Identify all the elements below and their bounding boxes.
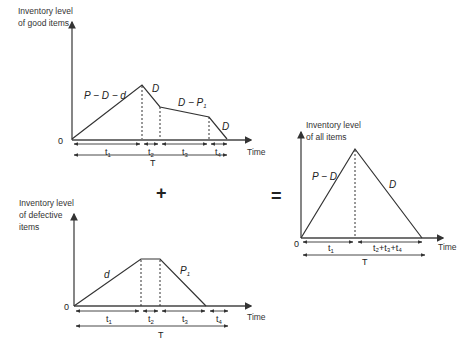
bottom-t2: t2 <box>148 314 155 325</box>
bottom-ylabel-2: of defective <box>19 210 63 220</box>
top-ylabel-2: of good items <box>18 18 69 28</box>
top-t3: t3 <box>182 147 189 158</box>
top-xlabel: Time <box>247 147 266 157</box>
bottom-ylabel-3: items <box>19 222 39 232</box>
top-origin: 0 <box>58 136 63 146</box>
right-chart-all-items: Inventory level of all items 0 Time P − … <box>294 120 457 267</box>
right-inventory-curve <box>301 149 422 238</box>
top-t2: t2 <box>148 147 155 158</box>
right-ylabel-1: Inventory level <box>306 120 361 130</box>
top-t4: t4 <box>215 147 222 158</box>
bottom-slope-up: d <box>104 269 110 280</box>
top-chart-good-items: Inventory level of good items 0 Time P −… <box>18 6 266 168</box>
bottom-origin: 0 <box>64 302 69 312</box>
right-t1: t1 <box>328 243 335 254</box>
top-t1: t1 <box>105 147 112 158</box>
right-slope-up: P − D <box>312 171 337 182</box>
right-origin: 0 <box>294 239 299 249</box>
right-total: T <box>362 257 368 267</box>
right-xlabel: Time <box>438 242 457 252</box>
top-ylabel-1: Inventory level <box>18 6 73 16</box>
top-slope-4: D <box>222 121 229 132</box>
bottom-slope-down: P1 <box>180 265 190 277</box>
bottom-total: T <box>158 330 164 340</box>
right-t234: t₂+t₃+t₄ <box>373 243 402 253</box>
right-slope-down: D <box>389 179 396 190</box>
top-slope-3: D − P1 <box>178 97 207 109</box>
inventory-diagram: Inventory level of good items 0 Time P −… <box>0 0 468 354</box>
right-ylabel-2: of all items <box>306 132 347 142</box>
top-total: T <box>150 158 156 168</box>
top-slope-1: P − D − d <box>84 90 126 101</box>
bottom-t1: t1 <box>106 314 113 325</box>
top-slope-2: D <box>152 83 159 94</box>
equals-operator: = <box>271 186 282 206</box>
bottom-chart-defective-items: Inventory level of defective items 0 Tim… <box>19 198 266 340</box>
bottom-t4: t4 <box>216 314 223 325</box>
bottom-ylabel-1: Inventory level <box>19 198 74 208</box>
bottom-xlabel: Time <box>247 312 266 322</box>
plus-operator: + <box>156 183 167 203</box>
bottom-t3: t3 <box>182 314 189 325</box>
